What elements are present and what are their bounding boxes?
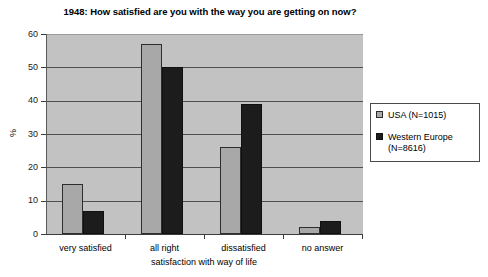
bar-dissatisfied-series-2 bbox=[241, 104, 262, 234]
y-tick-label-10: 10 bbox=[12, 196, 38, 205]
bar-chart: 1948: How satisfied are you with the way… bbox=[0, 0, 488, 277]
bar-very-satisfied-series-1 bbox=[62, 184, 83, 234]
y-tick-label-50: 50 bbox=[12, 63, 38, 72]
gridline-20 bbox=[47, 167, 363, 168]
bar-very-satisfied-series-2 bbox=[83, 211, 104, 234]
bar-all-right-series-1 bbox=[141, 44, 162, 234]
x-tick-mark-3 bbox=[283, 234, 284, 239]
x-tick-label-all-right: all right bbox=[125, 243, 204, 253]
legend-label-western-europe: Western Europe (N=8616) bbox=[388, 132, 474, 154]
y-tick-label-30: 30 bbox=[12, 130, 38, 139]
bar-no-answer-series-1 bbox=[299, 227, 320, 234]
x-tick-label-no-answer: no answer bbox=[283, 243, 362, 253]
legend-item-usa: USA (N=1015) bbox=[376, 110, 474, 121]
x-tick-mark-4 bbox=[362, 234, 363, 239]
x-axis-title: satisfaction with way of life bbox=[46, 257, 362, 267]
plot-top-border bbox=[47, 34, 363, 35]
y-tick-label-60: 60 bbox=[12, 30, 38, 39]
bar-no-answer-series-2 bbox=[320, 221, 341, 234]
y-tick-label-0: 0 bbox=[12, 230, 38, 239]
legend-label-usa: USA (N=1015) bbox=[388, 110, 446, 121]
legend-swatch-icon-usa bbox=[376, 111, 383, 118]
plot-area bbox=[46, 34, 363, 234]
gridline-50 bbox=[47, 67, 363, 68]
x-tick-label-dissatisfied: dissatisfied bbox=[204, 243, 283, 253]
gridline-40 bbox=[47, 101, 363, 102]
x-tick-label-very-satisfied: very satisfied bbox=[46, 243, 125, 253]
y-tick-label-20: 20 bbox=[12, 163, 38, 172]
bar-dissatisfied-series-1 bbox=[220, 147, 241, 234]
chart-title: 1948: How satisfied are you with the way… bbox=[60, 5, 360, 18]
legend-swatch-icon-western-europe bbox=[376, 133, 383, 140]
x-tick-mark-1 bbox=[125, 234, 126, 239]
bar-all-right-series-2 bbox=[162, 67, 183, 234]
y-tick-label-40: 40 bbox=[12, 96, 38, 105]
legend-item-western-europe: Western Europe (N=8616) bbox=[376, 132, 474, 154]
x-tick-mark-2 bbox=[204, 234, 205, 239]
legend: USA (N=1015) Western Europe (N=8616) bbox=[370, 103, 480, 162]
gridline-10 bbox=[47, 201, 363, 202]
gridline-30 bbox=[47, 134, 363, 135]
